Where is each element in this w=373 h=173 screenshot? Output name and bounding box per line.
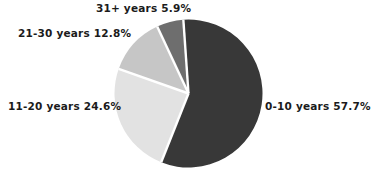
pie-chart-figure: 31+ years 5.9% 21-30 years 12.8% 11-20 y…: [0, 0, 373, 173]
pie-label-11-20: 11-20 years 24.6%: [8, 101, 121, 112]
pie-label-0-10: 0-10 years 57.7%: [265, 101, 371, 112]
pie-chart-graphic: [114, 19, 263, 168]
pie-svg: [114, 19, 263, 168]
pie-label-21-30: 21-30 years 12.8%: [18, 28, 131, 39]
pie-label-31-plus: 31+ years 5.9%: [96, 3, 191, 14]
